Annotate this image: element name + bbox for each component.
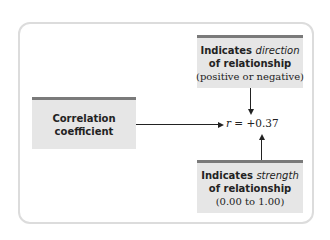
direction-box: Indicates direction of relationship (pos… [197,35,303,88]
direction-arrow-line [250,88,251,110]
strength-heading-emphasis: strength [256,170,298,181]
strength-range: (0.00 to 1.00) [216,195,285,208]
direction-subheading: of relationship [209,57,291,70]
coefficient-arrow-line [136,124,220,125]
correlation-result: r = +0.37 [226,117,279,129]
coefficient-label-line2: coefficient [55,125,114,138]
coefficient-arrowhead-icon [218,122,224,128]
strength-subheading: of relationship [209,182,291,195]
r-value: +0.37 [247,117,279,129]
direction-range: (positive or negative) [196,70,304,83]
strength-box: Indicates strength of relationship (0.00… [197,160,303,213]
equals-sign: = [231,117,246,129]
direction-heading-prefix: Indicates [200,45,255,56]
strength-heading-prefix: Indicates [201,170,256,181]
strength-arrowhead-icon [259,134,265,140]
coefficient-label-line1: Correlation [52,112,115,125]
strength-arrow-line [261,139,262,160]
direction-heading: Indicates direction [200,44,299,57]
strength-heading: Indicates strength [201,169,298,182]
direction-heading-emphasis: direction [256,45,300,56]
direction-arrowhead-icon [248,109,254,115]
coefficient-box: Correlation coefficient [32,97,136,149]
